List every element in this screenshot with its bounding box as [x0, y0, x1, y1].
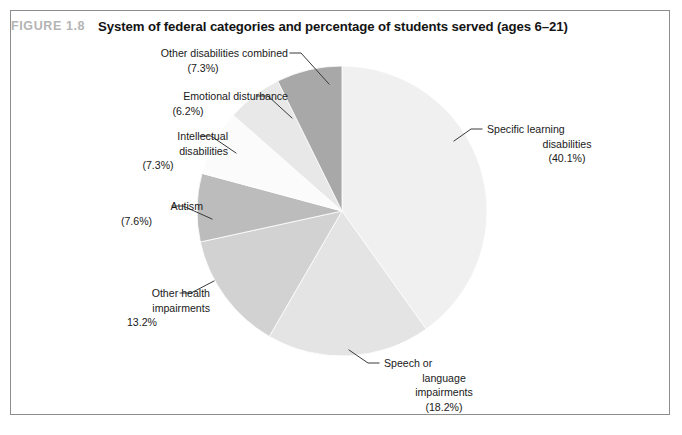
pie-label-line: impairments	[384, 385, 504, 400]
pie-label-percent: 13.2%	[74, 315, 210, 330]
pie-label-autism: Autism (7.6%)	[70, 199, 203, 228]
pie-label-line: Emotional disturbance	[88, 89, 288, 104]
pie-label-speech-or-language-impairments: Speech or language impairments (18.2%)	[384, 356, 504, 414]
pie-label-line: impairments	[74, 301, 210, 316]
pie-label-line: Other health	[74, 286, 210, 301]
pie-label-line: disabilities	[487, 137, 647, 152]
pie-label-line: Speech or	[384, 356, 504, 371]
pie-label-percent: (7.3%)	[88, 158, 228, 173]
pie-label-intellectual-disabilities: Intellectual disabilities (7.3%)	[88, 129, 228, 173]
pie-chart: Other disabilities combined (7.3%) Emoti…	[0, 0, 682, 435]
pie-label-percent: (7.6%)	[70, 214, 203, 229]
pie-label-percent: (7.3%)	[118, 61, 288, 76]
pie-label-line: language	[384, 371, 504, 386]
pie-label-other-disabilities-combined: Other disabilities combined (7.3%)	[118, 46, 288, 75]
pie-label-line: disabilities	[88, 144, 228, 159]
pie-label-emotional-disturbance: Emotional disturbance (6.2%)	[88, 89, 288, 118]
pie-label-other-health-impairments: Other health impairments 13.2%	[74, 286, 210, 330]
pie-label-line: Other disabilities combined	[118, 46, 288, 61]
pie-label-percent: (40.1%)	[487, 151, 647, 166]
pie-label-line: Intellectual	[88, 129, 228, 144]
pie-label-specific-learning-disabilities: Specific learning disabilities (40.1%)	[487, 122, 647, 166]
pie-label-percent: (18.2%)	[384, 400, 504, 415]
pie-label-line: Specific learning	[487, 122, 647, 137]
pie-label-percent: (6.2%)	[88, 104, 288, 119]
pie-label-line: Autism	[70, 199, 203, 214]
